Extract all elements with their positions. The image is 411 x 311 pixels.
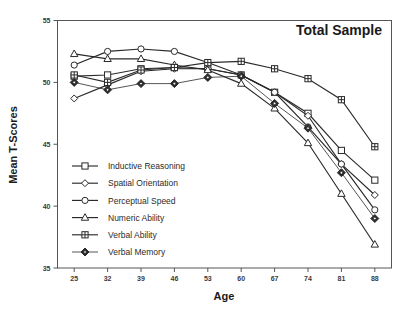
legend-label: Perceptual Speed bbox=[108, 196, 176, 206]
data-point-marker bbox=[338, 147, 344, 153]
legend-label: Inductive Reasoning bbox=[108, 161, 185, 171]
x-tick-label: 46 bbox=[171, 275, 179, 282]
data-point-marker bbox=[73, 81, 76, 84]
data-point-marker bbox=[106, 88, 109, 91]
data-point-marker bbox=[171, 48, 177, 54]
data-point-marker bbox=[372, 207, 378, 213]
y-tick-label: 35 bbox=[43, 265, 51, 272]
legend-label: Verbal Memory bbox=[108, 247, 166, 257]
x-tick-label: 81 bbox=[338, 275, 346, 282]
data-point-marker bbox=[373, 217, 376, 220]
data-point-marker bbox=[338, 161, 344, 167]
x-tick-label: 74 bbox=[304, 275, 312, 282]
data-point-marker bbox=[340, 171, 343, 174]
legend-marker bbox=[82, 197, 88, 203]
data-point-marker bbox=[105, 48, 111, 54]
data-point-marker bbox=[206, 76, 209, 79]
data-point-marker bbox=[307, 127, 310, 130]
line-chart-svg: 3540455055 25323946536067748188 Total Sa… bbox=[0, 0, 411, 311]
x-tick-label: 67 bbox=[271, 275, 279, 282]
data-point-marker bbox=[273, 102, 276, 105]
legend-marker bbox=[84, 251, 87, 254]
chart-title: Total Sample bbox=[296, 22, 382, 38]
chart-background bbox=[0, 0, 411, 311]
data-point-marker bbox=[140, 82, 143, 85]
y-axis-title: Mean T-Scores bbox=[7, 106, 19, 184]
y-tick-label: 40 bbox=[43, 203, 51, 210]
x-tick-label: 25 bbox=[70, 275, 78, 282]
y-tick-label: 50 bbox=[43, 79, 51, 86]
x-tick-label: 53 bbox=[204, 275, 212, 282]
data-point-marker bbox=[272, 89, 278, 95]
y-tick-label: 55 bbox=[43, 17, 51, 24]
x-tick-label: 39 bbox=[137, 275, 145, 282]
x-tick-label: 88 bbox=[371, 275, 379, 282]
x-tick-label: 60 bbox=[237, 275, 245, 282]
data-point-marker bbox=[240, 75, 243, 78]
y-tick-label: 45 bbox=[43, 141, 51, 148]
x-axis-title: Age bbox=[214, 290, 235, 302]
x-tick-label: 32 bbox=[104, 275, 112, 282]
legend-marker bbox=[82, 163, 88, 169]
data-point-marker bbox=[138, 46, 144, 52]
data-point-marker bbox=[105, 72, 111, 78]
data-point-marker bbox=[372, 177, 378, 183]
legend-label: Verbal Ability bbox=[108, 230, 157, 240]
data-point-marker bbox=[71, 62, 77, 68]
chart-figure: 3540455055 25323946536067748188 Total Sa… bbox=[0, 0, 411, 311]
legend-label: Spatial Orientation bbox=[108, 178, 178, 188]
data-point-marker bbox=[173, 82, 176, 85]
legend-label: Numeric Ability bbox=[108, 213, 165, 223]
